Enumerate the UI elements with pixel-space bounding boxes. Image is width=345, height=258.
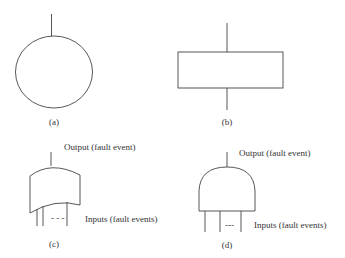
- or-output-label: Output (fault event): [64, 142, 135, 152]
- panel-b-rectangle-symbol: (b): [178, 23, 283, 127]
- panel-a-label: (a): [49, 117, 59, 127]
- and-inputs-ellipsis: ---: [225, 220, 234, 230]
- or-inputs-label: Inputs (fault events): [85, 214, 157, 224]
- circle-event: [16, 36, 93, 108]
- panel-b-label: (b): [222, 117, 233, 127]
- or-inputs-ellipsis: - - -: [51, 213, 65, 223]
- panel-c-or-gate-symbol: - - - Output (fault event) Inputs (fault…: [30, 142, 157, 249]
- panel-d-label: (d): [222, 240, 233, 250]
- panel-c-label: (c): [49, 239, 59, 249]
- or-gate-body: [30, 168, 80, 213]
- fault-tree-symbols-figure: (a) (b) - - - Output (fault event) Input…: [0, 0, 345, 258]
- panel-a-circle-symbol: (a): [16, 14, 93, 127]
- and-output-label: Output (fault event): [239, 148, 310, 158]
- panel-d-and-gate-symbol: --- Output (fault event) Inputs (fault e…: [199, 148, 326, 250]
- and-inputs-label: Inputs (fault events): [254, 220, 326, 230]
- and-gate-body: [199, 167, 255, 211]
- rectangle-event: [178, 52, 283, 88]
